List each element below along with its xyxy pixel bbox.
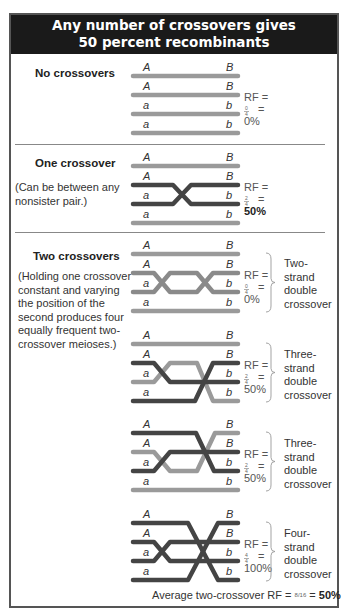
rf-label: RF = [244, 538, 268, 550]
locus-label: b [226, 277, 232, 289]
locus-label: a [143, 475, 149, 487]
locus-label: A [142, 239, 150, 251]
locus-label: B [226, 170, 233, 182]
rf-percent: 100% [244, 562, 272, 574]
locus-label: b [226, 456, 232, 468]
rf-equals: = [258, 193, 264, 205]
locus-label: a [143, 546, 149, 558]
locus-label: a [143, 386, 149, 398]
locus-label: a [143, 456, 149, 468]
rf-equals: = [258, 460, 264, 472]
locus-label: A [142, 348, 150, 360]
locus-label: a [143, 189, 149, 201]
locus-label: b [226, 367, 232, 379]
crossover-diagram: ABABababRF =04=0%ABABababRF =24=50%ABABa… [0, 0, 348, 612]
locus-label: B [226, 527, 233, 539]
rf-percent: 0% [244, 293, 260, 305]
rf-percent: 50% [244, 205, 266, 217]
locus-label: B [226, 151, 233, 163]
rf-percent: 50% [244, 472, 266, 484]
locus-label: b [226, 386, 232, 398]
locus-label: A [142, 437, 150, 449]
locus-label: A [142, 80, 150, 92]
rf-label: RF = [244, 359, 268, 371]
rf-label: RF = [244, 269, 268, 281]
locus-label: b [226, 565, 232, 577]
locus-label: b [226, 118, 232, 130]
locus-label: a [143, 367, 149, 379]
locus-label: B [226, 508, 233, 520]
locus-label: B [226, 61, 233, 73]
locus-label: B [226, 437, 233, 449]
locus-label: a [143, 296, 149, 308]
rf-label: RF = [244, 91, 268, 103]
locus-label: B [226, 239, 233, 251]
rf-equals: = [258, 550, 264, 562]
locus-label: B [226, 258, 233, 270]
brace-bracket [266, 253, 275, 312]
locus-label: A [142, 151, 150, 163]
locus-label: a [143, 277, 149, 289]
brace-bracket [266, 432, 275, 491]
locus-label: b [226, 475, 232, 487]
rf-label: RF = [244, 448, 268, 460]
rf-equals: = [258, 371, 264, 383]
locus-label: b [226, 546, 232, 558]
locus-label: b [226, 208, 232, 220]
locus-label: A [142, 418, 150, 430]
locus-label: B [226, 329, 233, 341]
locus-label: B [226, 348, 233, 360]
locus-label: A [142, 61, 150, 73]
locus-label: A [142, 329, 150, 341]
rf-label: RF = [244, 181, 268, 193]
locus-label: A [142, 527, 150, 539]
locus-label: b [226, 189, 232, 201]
rf-percent: 50% [244, 383, 266, 395]
brace-bracket [266, 343, 275, 402]
locus-label: A [142, 258, 150, 270]
locus-label: B [226, 80, 233, 92]
locus-label: A [142, 170, 150, 182]
locus-label: a [143, 99, 149, 111]
locus-label: b [226, 296, 232, 308]
rf-percent: 0% [244, 115, 260, 127]
rf-equals: = [258, 103, 264, 115]
locus-label: a [143, 208, 149, 220]
locus-label: a [143, 118, 149, 130]
locus-label: a [143, 565, 149, 577]
rf-equals: = [258, 281, 264, 293]
locus-label: b [226, 99, 232, 111]
locus-label: A [142, 508, 150, 520]
locus-label: B [226, 418, 233, 430]
